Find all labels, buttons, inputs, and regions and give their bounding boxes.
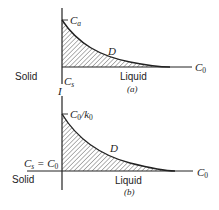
- panel-a: Ca D C0 Solid Cs I Liquid (a): [15, 8, 206, 104]
- panel-a-liquid-label: Liquid: [120, 71, 147, 82]
- panel-b-far-field-label: C0: [197, 166, 208, 180]
- panel-b-liquid-label: Liquid: [115, 175, 142, 186]
- panel-b-curve-label: D: [109, 142, 118, 154]
- panel-a-far-field-label: C0: [195, 61, 206, 75]
- panel-b: C0/k0 D C0 Cs = C0 Solid Liquid (b): [12, 104, 208, 197]
- panel-a-interface-conc-label: Cs: [64, 75, 74, 89]
- panel-a-interface-label: I: [57, 85, 63, 97]
- panel-a-solid-label: Solid: [15, 71, 37, 82]
- panel-b-interface-conc-label: Cs = C0: [24, 157, 59, 171]
- panel-a-top-label: Ca: [70, 14, 81, 28]
- panel-b-top-label: C0/k0: [70, 108, 93, 122]
- panel-b-hatched-region: [62, 114, 175, 171]
- panel-a-caption: (a): [127, 84, 138, 94]
- panel-b-solid-label: Solid: [12, 174, 34, 185]
- solute-profile-diagram: Ca D C0 Solid Cs I Liquid (a) C0/k0 D C0…: [0, 0, 219, 210]
- panel-b-caption: (b): [124, 187, 135, 197]
- panel-a-curve-label: D: [107, 45, 116, 57]
